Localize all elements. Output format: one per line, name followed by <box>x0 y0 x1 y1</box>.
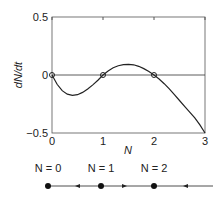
phase-point <box>151 183 157 189</box>
phase-point <box>45 183 51 189</box>
x-tick-label: 3 <box>202 135 208 147</box>
y-axis-label: dN/dt <box>12 61 24 88</box>
phase-label: N = 0 <box>35 162 62 174</box>
y-tick-label: −0.5 <box>26 127 48 139</box>
phase-arrow <box>122 184 127 188</box>
y-tick-label: 0.5 <box>33 11 48 23</box>
y-tick-label: 0 <box>42 69 48 81</box>
x-tick-label: 2 <box>151 135 157 147</box>
phase-arrow <box>75 184 80 188</box>
chart: 01230.50−0.5 N dN/dt N = 0N = 1N = 2 <box>0 0 213 199</box>
phase-label: N = 2 <box>141 162 168 174</box>
phase-arrow <box>183 184 188 188</box>
x-tick-label: 1 <box>100 135 106 147</box>
x-axis-label: N <box>124 144 132 156</box>
phase-label: N = 1 <box>88 162 115 174</box>
phase-point <box>98 183 104 189</box>
x-tick-label: 0 <box>49 135 55 147</box>
